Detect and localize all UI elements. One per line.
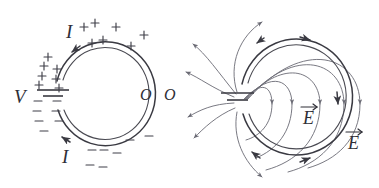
right-ring-outline	[242, 39, 353, 155]
e-field-label-outer: E	[346, 129, 362, 153]
current-label-top: I	[65, 21, 74, 42]
physics-figure: I I V O O	[0, 0, 379, 188]
e-field-label-outer-text: E	[347, 133, 359, 153]
left-battery-symbol	[37, 90, 69, 96]
current-label-bottom: I	[61, 146, 70, 167]
e-field-label-inner-text: E	[302, 108, 314, 128]
left-positive-charges	[35, 19, 148, 92]
left-panel-canvas: I I V O O	[0, 0, 379, 188]
e-field-label-inner: E	[301, 104, 317, 128]
observer-label-inner: O	[140, 86, 152, 103]
voltage-label: V	[14, 86, 28, 107]
left-current-arrows	[62, 46, 80, 142]
left-negative-charges	[33, 101, 153, 167]
observer-label-outer: O	[164, 86, 176, 103]
